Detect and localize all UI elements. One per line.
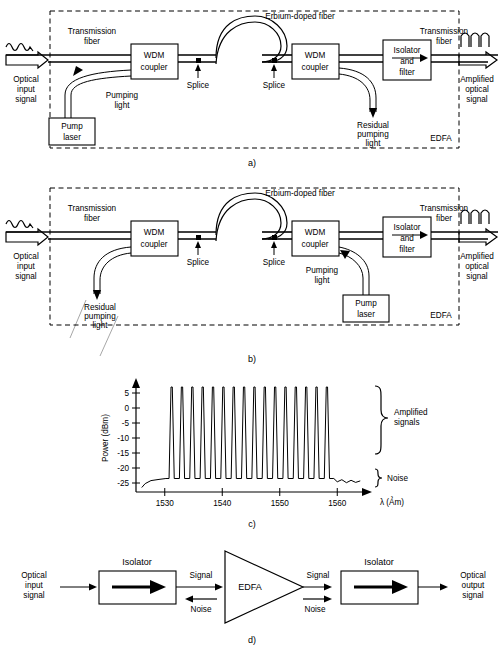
edfa-triangle-d <box>225 551 303 623</box>
edfa-enclosure-label-a: EDFA <box>430 134 452 143</box>
optical-input-signal-d-line3: signal <box>23 591 45 600</box>
pumping-light-label-a-line1: Pumping <box>106 91 139 100</box>
chart-spectrum-trace <box>142 387 361 488</box>
optical-input-signal-a-line1: Optical <box>13 75 39 84</box>
amplified-signals-label-line1: Amplified <box>394 408 428 417</box>
chart-y-axis-arrowhead <box>132 378 140 388</box>
noise-left-label-d: Noise <box>191 605 212 614</box>
isolator-right-label-d: Isolator <box>364 557 394 567</box>
isolator-filter-b-line3: filter <box>399 245 415 254</box>
input-waveform-icon-b <box>6 221 33 229</box>
transmission-fiber-left-a-line2: fiber <box>84 37 100 46</box>
input-waveform-icon <box>6 44 33 52</box>
chart-y-tick-label: -15 <box>117 449 129 458</box>
panel-d-edfa-block-diagram: Optical input signal Isolator Signal Noi… <box>0 548 504 648</box>
residual-pumping-light-b-line3: light <box>92 321 108 330</box>
residual-pump-curve-b-inner <box>100 253 131 294</box>
pumping-light-arrowhead-b <box>340 250 350 259</box>
amplified-optical-signal-b-line2: optical <box>465 262 489 271</box>
noise-label: Noise <box>387 474 408 483</box>
amplified-signals-label-line2: signals <box>394 418 420 427</box>
splice-marker-right-b <box>272 235 277 240</box>
transmission-fiber-left-b-line1: Transmission <box>68 204 117 213</box>
amplified-signals-brace <box>375 386 388 454</box>
amplified-optical-signal-a-line2: optical <box>465 85 489 94</box>
transmission-fiber-right-b-line1: Transmission <box>420 204 469 213</box>
chart-y-tick-label: -10 <box>117 434 129 443</box>
amplified-optical-signal-b-line3: signal <box>466 272 488 281</box>
erbium-doped-fiber-coil-inner <box>216 22 281 64</box>
erbium-doped-fiber-label-a: Erbium-doped fiber <box>265 12 335 21</box>
wdm-coupler-right-label-b-line2: coupler <box>302 240 329 249</box>
residual-pump-arrowhead-b <box>93 290 101 300</box>
amplified-optical-signal-a-line3: signal <box>466 95 488 104</box>
optical-input-signal-b-line1: Optical <box>13 252 39 261</box>
panel-c-caption: c) <box>248 519 256 529</box>
panel-b-drawing: WDM coupler Residual pumping light Erbiu… <box>0 178 504 368</box>
panel-a-drawing: WDM coupler Pump laser Pumping light Erb… <box>0 0 504 170</box>
chart-x-tick-label: 1530 <box>156 499 175 508</box>
input-connector-arrowhead-d <box>89 584 97 591</box>
pump-fiber-curve-b-inner <box>339 253 363 295</box>
panel-a-caption: a) <box>248 158 256 168</box>
chart-xlabel: λ (Ảm) <box>380 496 404 507</box>
erbium-doped-fiber-label-b: Erbium-doped fiber <box>265 189 335 198</box>
wdm-coupler-right-box <box>292 44 339 79</box>
chart-y-tick-label: -5 <box>122 419 130 428</box>
wdm-coupler-left-box <box>131 44 178 79</box>
splice-arrowhead-left-a <box>195 64 201 71</box>
signal-right-label-d: Signal <box>307 571 330 580</box>
chart-x-tick-label: 1560 <box>328 499 347 508</box>
optical-input-signal-a-line2: input <box>17 85 35 94</box>
wdm-coupler-left-label-b-line1: WDM <box>144 228 165 237</box>
panel-c-edfa-output-spectrum-chart: 50-5-10-15-20-25 1530154015501560 Power … <box>0 372 504 532</box>
wdm-coupler-left-label-line2: coupler <box>141 63 168 72</box>
transmission-fiber-right-a-line1: Transmission <box>420 27 469 36</box>
wdm-coupler-right-label-line1: WDM <box>305 51 326 60</box>
splice-arrowhead-right-a <box>271 64 277 71</box>
wdm-coupler-left-box-b <box>131 221 178 256</box>
pump-laser-label-b-line1: Pump <box>355 299 377 308</box>
splice-label-left-b: Splice <box>187 258 210 267</box>
splice-marker-left-a <box>196 58 201 63</box>
amplified-optical-signal-b-line1: Amplified <box>460 252 494 261</box>
noise-left-arrowhead-d <box>185 596 193 603</box>
splice-label-left-a: Splice <box>187 81 210 90</box>
optical-input-signal-b-line2: input <box>17 262 35 271</box>
edfa-enclosure-label-b: EDFA <box>430 311 452 320</box>
residual-pumping-light-b-line2: pumping <box>84 312 116 321</box>
chart-y-tick-label: 0 <box>124 404 129 413</box>
noise-right-label-d: Noise <box>305 605 326 614</box>
wdm-coupler-right-label-b-line1: WDM <box>305 228 326 237</box>
noise-brace <box>375 469 382 487</box>
splice-marker-right-a <box>272 58 277 63</box>
splice-label-right-b: Splice <box>263 258 286 267</box>
noise-right-arrowhead-d <box>324 596 332 603</box>
chart-ylabel: Power (dBm) <box>101 414 110 462</box>
transmission-fiber-right-a-line2: fiber <box>436 37 452 46</box>
chart-x-tick-label: 1550 <box>271 499 290 508</box>
edfa-label-d: EDFA <box>238 582 262 592</box>
wdm-coupler-right-label-line2: coupler <box>302 63 329 72</box>
isolator-filter-b-line1: Isolator <box>394 223 421 232</box>
erbium-doped-fiber-coil-inner-b <box>216 199 281 241</box>
panel-d-caption: d) <box>248 635 256 645</box>
residual-pumping-light-a-line3: light <box>365 139 381 148</box>
wdm-coupler-right-box-b <box>292 221 339 256</box>
splice-label-right-a: Splice <box>263 81 286 90</box>
pumping-light-label-a-line2: light <box>114 101 130 110</box>
signal-left-label-d: Signal <box>190 571 213 580</box>
residual-pumping-light-b-line1: Residual <box>84 303 116 312</box>
optical-output-signal-d-line1: Optical <box>460 571 486 580</box>
panel-b-caption: b) <box>248 354 256 364</box>
pumping-light-label-b-line1: Pumping <box>306 266 339 275</box>
output-connector-arrowhead-d <box>440 584 448 591</box>
splice-arrowhead-right-b <box>271 241 277 248</box>
splice-arrowhead-left-b <box>195 241 201 248</box>
edfa-to-isolator-arrowhead-d <box>324 584 332 591</box>
wdm-coupler-left-label-b-line2: coupler <box>141 240 168 249</box>
chart-x-ticks: 1530154015501560 <box>156 488 347 508</box>
residual-pump-arrowhead-a <box>369 108 377 118</box>
chart-y-tick-label: 5 <box>124 389 129 398</box>
pumping-light-label-b-line2: light <box>314 276 330 285</box>
